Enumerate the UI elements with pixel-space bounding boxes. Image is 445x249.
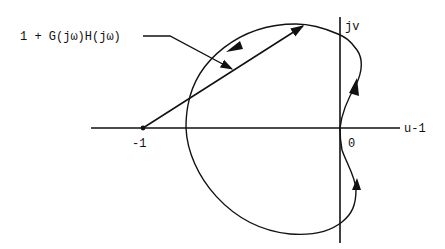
minus-one-label: -1 [132,137,146,151]
nyquist-diagram: 1 + G(jω)H(jω) jv u-1 -1 0 [0,0,445,249]
origin-label: 0 [348,137,355,151]
curve-arrow-top-left-icon [226,41,243,52]
vector-label: 1 + G(jω)H(jω) [20,30,121,44]
vector-1-plus-gh [143,26,303,128]
minus-one-point [141,126,146,131]
horizontal-axis-label: u-1 [404,122,426,136]
vertical-axis-label: jv [345,20,359,34]
nyquist-curve-upper [186,24,361,128]
nyquist-curve-lower [186,128,356,234]
